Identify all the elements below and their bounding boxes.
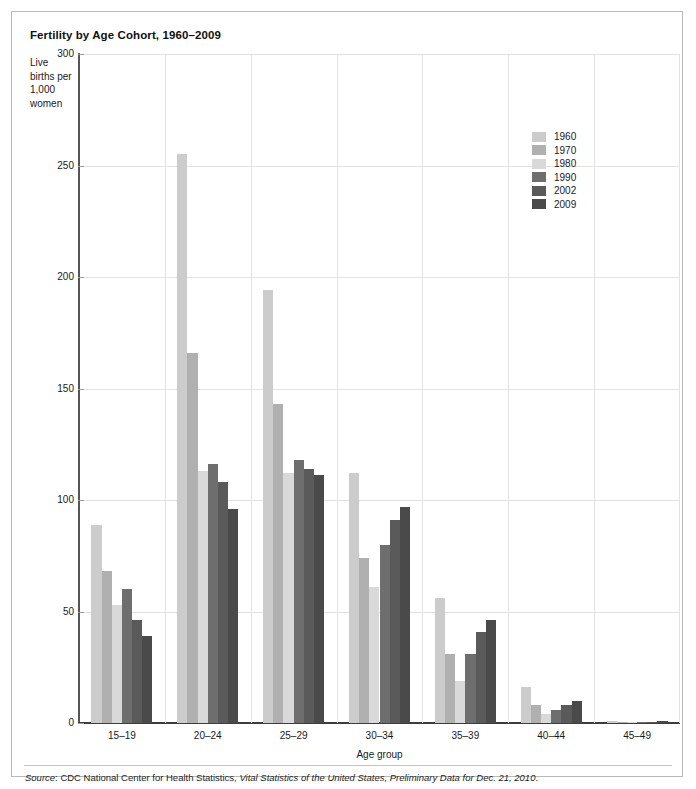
x-tick-label: 20–24 xyxy=(165,730,251,741)
bar xyxy=(572,701,582,723)
legend-label: 1960 xyxy=(554,131,576,142)
y-tick-mark xyxy=(78,166,84,167)
bar xyxy=(208,464,218,723)
source-publication: Vital Statistics of the United States, P… xyxy=(239,772,535,783)
legend-swatch-icon xyxy=(532,145,546,155)
bar xyxy=(486,620,496,723)
bar xyxy=(380,545,390,723)
y-tick-mark xyxy=(78,389,84,390)
bar xyxy=(283,473,293,723)
source-note: Source: CDC National Center for Health S… xyxy=(25,772,538,783)
bar xyxy=(521,687,531,723)
bar xyxy=(142,636,152,723)
bar xyxy=(647,722,657,723)
bars-layer xyxy=(79,54,680,723)
legend-label: 1980 xyxy=(554,158,576,169)
source-prefix: Source xyxy=(25,772,55,783)
legend-label: 1970 xyxy=(554,145,576,156)
bar xyxy=(627,722,637,723)
bar xyxy=(304,469,314,723)
legend-swatch-icon xyxy=(532,172,546,182)
legend-item: 1960 xyxy=(532,130,576,144)
legend-label: 1990 xyxy=(554,172,576,183)
bar xyxy=(435,598,445,723)
bar xyxy=(218,482,228,723)
y-tick-label: 50 xyxy=(32,606,74,617)
legend-swatch-icon xyxy=(532,132,546,142)
y-tick-mark xyxy=(78,612,84,613)
legend-item: 1990 xyxy=(532,171,576,185)
legend-item: 1970 xyxy=(532,144,576,158)
chart-legend: 196019701980199020022009 xyxy=(532,130,576,211)
bar xyxy=(122,589,132,723)
y-tick-label: 0 xyxy=(32,717,74,728)
plot-area xyxy=(79,54,680,723)
x-tick-label: 40–44 xyxy=(508,730,594,741)
y-tick-mark xyxy=(78,723,84,724)
legend-swatch-icon xyxy=(532,159,546,169)
bar xyxy=(637,722,647,723)
y-tick-label: 250 xyxy=(32,160,74,171)
legend-swatch-icon xyxy=(532,186,546,196)
bar xyxy=(531,705,541,723)
bar xyxy=(263,290,273,723)
y-tick-mark xyxy=(78,54,84,55)
bar xyxy=(112,605,122,723)
bar xyxy=(445,654,455,723)
bar xyxy=(561,705,571,723)
legend-swatch-icon xyxy=(532,199,546,209)
source-divider xyxy=(24,765,672,766)
bar xyxy=(400,507,410,723)
bar xyxy=(617,722,627,723)
x-tick-label: 35–39 xyxy=(422,730,508,741)
legend-label: 2002 xyxy=(554,185,576,196)
y-tick-label: 100 xyxy=(32,494,74,505)
x-tick-label: 30–34 xyxy=(337,730,423,741)
bar xyxy=(465,654,475,723)
bar xyxy=(177,154,187,723)
bar xyxy=(273,404,283,723)
bar xyxy=(541,714,551,723)
chart-canvas: 050100150200250300 15–1920–2425–2930–343… xyxy=(12,12,684,778)
bar xyxy=(132,620,142,723)
bar xyxy=(102,571,112,723)
y-tick-mark xyxy=(78,277,84,278)
x-tick-label: 15–19 xyxy=(79,730,165,741)
bar xyxy=(314,475,324,723)
bar xyxy=(551,710,561,723)
x-tick-label: 45–49 xyxy=(594,730,680,741)
y-tick-label: 200 xyxy=(32,271,74,282)
y-tick-label: 150 xyxy=(32,383,74,394)
bar xyxy=(198,471,208,723)
legend-item: 1980 xyxy=(532,157,576,171)
bar xyxy=(228,509,238,723)
source-lead: : CDC National Center for Health Statist… xyxy=(55,772,239,783)
bar xyxy=(390,520,400,723)
y-tick-mark xyxy=(78,500,84,501)
bar xyxy=(91,525,101,723)
bar xyxy=(607,721,617,723)
bar xyxy=(369,587,379,723)
x-axis-title: Age group xyxy=(79,749,680,760)
legend-item: 2002 xyxy=(532,184,576,198)
bar xyxy=(294,460,304,723)
bar xyxy=(476,632,486,723)
bar xyxy=(187,353,197,723)
x-tick-label: 25–29 xyxy=(251,730,337,741)
figure-panel: Fertility by Age Cohort, 1960–2009 Live … xyxy=(11,11,683,777)
legend-item: 2009 xyxy=(532,198,576,212)
legend-label: 2009 xyxy=(554,199,576,210)
bar xyxy=(349,473,359,723)
bar xyxy=(455,681,465,723)
y-tick-label: 300 xyxy=(32,48,74,59)
source-terminator: . xyxy=(535,772,538,783)
bar xyxy=(359,558,369,723)
bar xyxy=(657,721,667,723)
